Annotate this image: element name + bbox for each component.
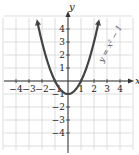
y-tick-label: −2 [52,102,65,112]
y-tick-label: 4 [59,24,65,34]
y-tick-label: −1 [52,89,65,99]
x-tick-label: 2 [91,84,97,94]
x-tick-label: −2 [35,84,48,94]
x-axis-label: x [135,75,139,86]
y-tick-label: −4 [52,128,66,138]
x-tick-label: −4 [9,84,23,94]
y-tick-label: 1 [59,63,65,73]
y-tick-label: 3 [59,37,65,47]
y-tick-label: −3 [52,115,66,125]
x-tick-label: 3 [104,84,110,94]
y-tick-label: 2 [59,50,65,60]
x-tick-label: 4 [117,84,123,94]
coordinate-plane: −4−3−2−11234−4−3−2−11234 x y y = x² − 1 [0,0,139,155]
y-axis-label: y [68,1,75,12]
x-tick-label: −3 [22,84,36,94]
